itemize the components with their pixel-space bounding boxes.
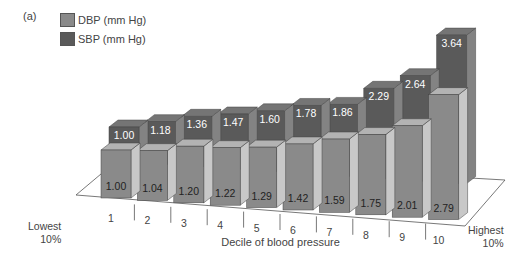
svg-text:1.29: 1.29 <box>251 190 272 202</box>
svg-text:1.36: 1.36 <box>187 118 208 130</box>
svg-text:3: 3 <box>181 217 187 229</box>
svg-text:2.79: 2.79 <box>433 202 454 214</box>
bar-chart: 3.642.642.291.861.781.601.471.361.181.00… <box>0 0 521 263</box>
svg-text:2.01: 2.01 <box>397 199 418 211</box>
svg-text:2.29: 2.29 <box>369 90 390 102</box>
x-axis-label: Decile of blood pressure <box>0 236 521 248</box>
svg-text:5: 5 <box>254 222 260 234</box>
svg-text:1.20: 1.20 <box>179 185 200 197</box>
svg-text:1: 1 <box>108 212 114 224</box>
svg-text:1.18: 1.18 <box>150 124 171 136</box>
svg-text:1.04: 1.04 <box>142 182 163 194</box>
svg-text:1.60: 1.60 <box>259 113 280 125</box>
svg-text:6: 6 <box>290 224 296 236</box>
svg-text:4: 4 <box>217 219 223 231</box>
svg-text:2.64: 2.64 <box>405 78 426 90</box>
svg-text:2: 2 <box>144 214 150 226</box>
svg-text:1.00: 1.00 <box>114 129 135 141</box>
svg-text:1.59: 1.59 <box>324 194 345 206</box>
svg-text:3.64: 3.64 <box>441 37 462 49</box>
svg-text:1.00: 1.00 <box>106 180 127 192</box>
svg-text:1.47: 1.47 <box>223 116 244 128</box>
svg-text:1.22: 1.22 <box>215 187 236 199</box>
svg-text:1.75: 1.75 <box>361 197 382 209</box>
lowest-label-line1: Lowest <box>28 220 61 233</box>
svg-text:1.42: 1.42 <box>288 192 309 204</box>
svg-text:1.86: 1.86 <box>332 106 353 118</box>
svg-text:1.78: 1.78 <box>296 107 317 119</box>
